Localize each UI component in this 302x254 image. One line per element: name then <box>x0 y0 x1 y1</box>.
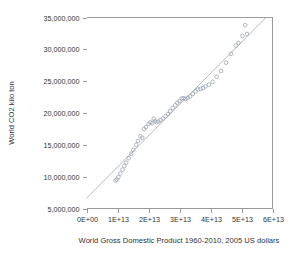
y-tick-label: 5,000,000 <box>48 205 80 214</box>
x-tick-label: 2E+13 <box>139 215 160 224</box>
y-tick-label: 35,000,000 <box>44 14 80 23</box>
x-axis-tick-labels: 0E+001E+132E+133E+134E+135E+136E+13 <box>77 215 284 224</box>
y-tick-label: 10,000,000 <box>44 173 80 182</box>
y-axis-ticks <box>83 19 87 210</box>
data-point <box>136 139 140 143</box>
y-tick-label: 30,000,000 <box>44 45 80 54</box>
x-axis-title: World Gross Domestic Product 1960-2010, … <box>79 236 280 245</box>
data-point <box>201 86 205 90</box>
data-point <box>237 41 241 45</box>
data-point <box>124 161 128 165</box>
data-point <box>207 83 211 87</box>
y-tick-label: 25,000,000 <box>44 77 80 86</box>
x-tick-label: 4E+13 <box>201 215 222 224</box>
x-axis-ticks <box>88 209 274 213</box>
x-tick-label: 5E+13 <box>232 215 253 224</box>
data-point <box>241 34 245 38</box>
data-point <box>215 75 219 79</box>
y-tick-label: 15,000,000 <box>44 141 80 150</box>
y-axis-tick-labels: 5,000,00010,000,00015,000,00020,000,0002… <box>44 14 80 214</box>
y-tick-label: 20,000,000 <box>44 109 80 118</box>
x-tick-label: 1E+13 <box>108 215 129 224</box>
data-point <box>224 61 228 65</box>
data-point <box>118 172 122 176</box>
data-point <box>211 80 215 84</box>
data-point <box>127 156 131 160</box>
x-tick-label: 6E+13 <box>263 215 284 224</box>
data-point <box>196 88 200 92</box>
data-point <box>194 90 198 94</box>
data-point <box>168 109 172 113</box>
x-tick-label: 3E+13 <box>170 215 191 224</box>
data-point <box>243 23 247 27</box>
data-point <box>134 143 138 147</box>
y-axis-title: World CO2 kilo ton <box>7 81 16 145</box>
scatter-chart-figure: 5,000,00010,000,00015,000,00020,000,0002… <box>0 0 302 254</box>
plot-border <box>87 18 273 209</box>
data-point <box>199 87 203 91</box>
chart-canvas: 5,000,00010,000,00015,000,00020,000,0002… <box>0 0 302 254</box>
x-tick-label: 0E+00 <box>77 215 98 224</box>
data-point <box>245 32 249 36</box>
data-point <box>219 69 223 73</box>
plot-frame <box>87 18 273 209</box>
data-point <box>121 168 125 172</box>
